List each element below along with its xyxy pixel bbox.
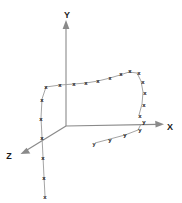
figure-canvas: x x x x x x x x x x x x x x x x x x x y … bbox=[0, 0, 182, 203]
figure-background bbox=[0, 0, 182, 203]
data-point-marker: x bbox=[109, 75, 112, 81]
axis-label-z: Z bbox=[6, 151, 12, 161]
axis-label-x: X bbox=[167, 122, 173, 132]
axis-label-y: Y bbox=[64, 10, 70, 20]
three-d-scatter-figure: x x x x x x x x x x x x x x x x x x x y … bbox=[0, 0, 182, 203]
data-point-marker: y bbox=[93, 141, 96, 147]
